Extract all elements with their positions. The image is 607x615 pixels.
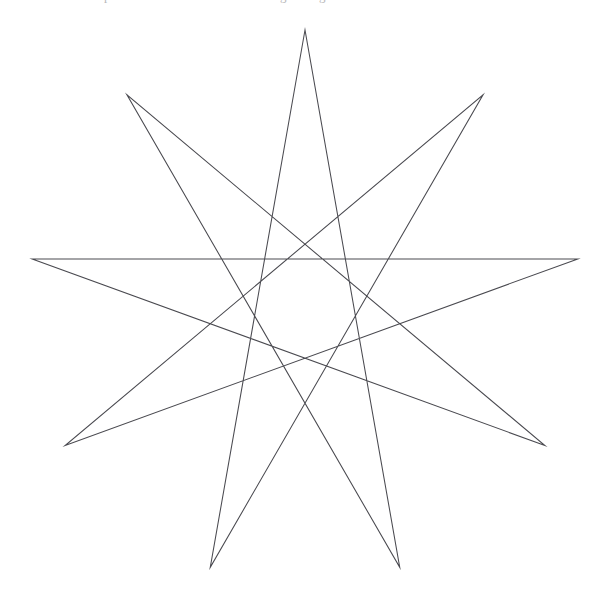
figure-page: p g g . — [0, 0, 607, 615]
star-polygon-path — [32, 30, 578, 567]
nine-pointed-star-figure — [0, 0, 607, 615]
